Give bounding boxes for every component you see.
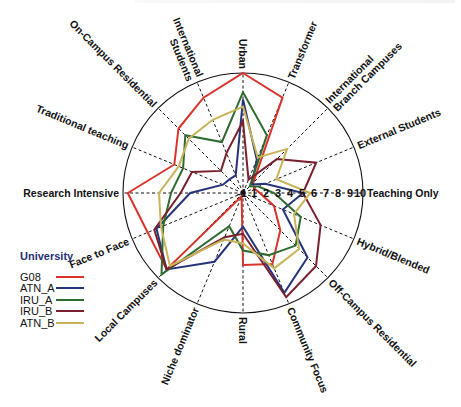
legend: University G08 ATN_A IRU_A IRU_B ATN_B [20,250,84,329]
axis-label: Teaching Only [367,187,439,199]
axis-label: Community Focus [285,305,331,394]
legend-swatch [56,310,84,312]
axis-label: Traditional teaching [34,102,130,151]
tick-label: 1 [251,187,257,199]
axis-label: Transformer [285,19,320,80]
tick-label-center: -1 [237,187,247,199]
legend-swatch [56,276,84,278]
svg-text:Local Campuses: Local Campuses [92,276,160,344]
tick-label: 2 [263,187,269,199]
legend-item-atn-b: ATN_B [20,317,84,329]
svg-text:Traditional teaching: Traditional teaching [34,102,130,151]
tick-label: 9 [347,187,353,199]
tick-label: 8 [335,187,341,199]
legend-label: IRU_B [20,305,54,317]
axis-spoke [197,82,243,193]
tick-label: 10 [354,187,366,199]
axis-label: Niche dominator [158,305,201,386]
tick-label: 6 [311,187,317,199]
axis-label: InternationalBranch Campuses [323,32,405,114]
legend-item-iru-a: IRU_A [20,294,84,306]
svg-text:Niche dominator: Niche dominator [158,305,201,386]
axis-label: InternationalStudents [161,16,206,83]
legend-label: ATN_B [20,317,54,329]
legend-label: G08 [20,271,54,283]
svg-text:Urban: Urban [237,39,249,69]
tick-label: 4 [287,187,294,199]
legend-title: University [20,250,84,262]
svg-text:Community Focus: Community Focus [285,305,331,394]
axis-label: Local Campuses [92,276,160,344]
axis-label: Rural [237,317,249,344]
svg-text:Transformer: Transformer [285,19,320,80]
tick-label: 5 [299,187,305,199]
svg-text:Teaching Only: Teaching Only [367,187,439,199]
svg-text:Hybrid/Blended: Hybrid/Blended [355,235,431,276]
svg-text:Rural: Rural [237,317,249,344]
radar-series [128,73,321,297]
legend-swatch [56,287,84,289]
legend-swatch [56,322,84,324]
svg-text:External Students: External Students [355,106,442,151]
legend-label: ATN_A [20,282,54,294]
axis-spoke [132,193,243,239]
axis-label: External Students [355,106,442,151]
axis-label: Hybrid/Blended [355,235,431,276]
axis-label: Urban [237,39,249,69]
tick-label: 7 [323,187,329,199]
legend-label: IRU_A [20,294,54,306]
svg-text:Off-Campus Residential: Off-Campus Residential [326,276,419,369]
legend-item-atn-a: ATN_A [20,283,84,295]
svg-text:Branch Campuses: Branch Campuses [330,40,404,114]
legend-swatch [56,299,84,301]
axis-label: On-Campus Residential [67,17,159,109]
radial-tick-labels: -112345678910 [237,187,366,199]
legend-item-iru-b: IRU_B [20,306,84,318]
tick-label: 3 [275,187,281,199]
svg-text:On-Campus Residential: On-Campus Residential [67,17,159,109]
svg-text:Research Intensive: Research Intensive [23,187,119,199]
radar-chart: -112345678910 UrbanTransformerInternatio… [0,0,461,407]
axis-label: Off-Campus Residential [326,276,419,369]
axis-label: Research Intensive [23,187,119,199]
legend-item-g08: G08 [20,271,84,283]
series-iru-a [162,92,301,274]
